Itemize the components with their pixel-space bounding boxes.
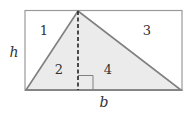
- diagram-canvas: 1 2 3 4 h b: [0, 0, 192, 113]
- region-label-1: 1: [40, 23, 48, 38]
- height-label: h: [9, 44, 18, 60]
- region-label-3: 3: [143, 23, 151, 38]
- region-label-2: 2: [55, 62, 63, 77]
- base-label: b: [100, 94, 109, 110]
- region-label-4: 4: [104, 62, 112, 77]
